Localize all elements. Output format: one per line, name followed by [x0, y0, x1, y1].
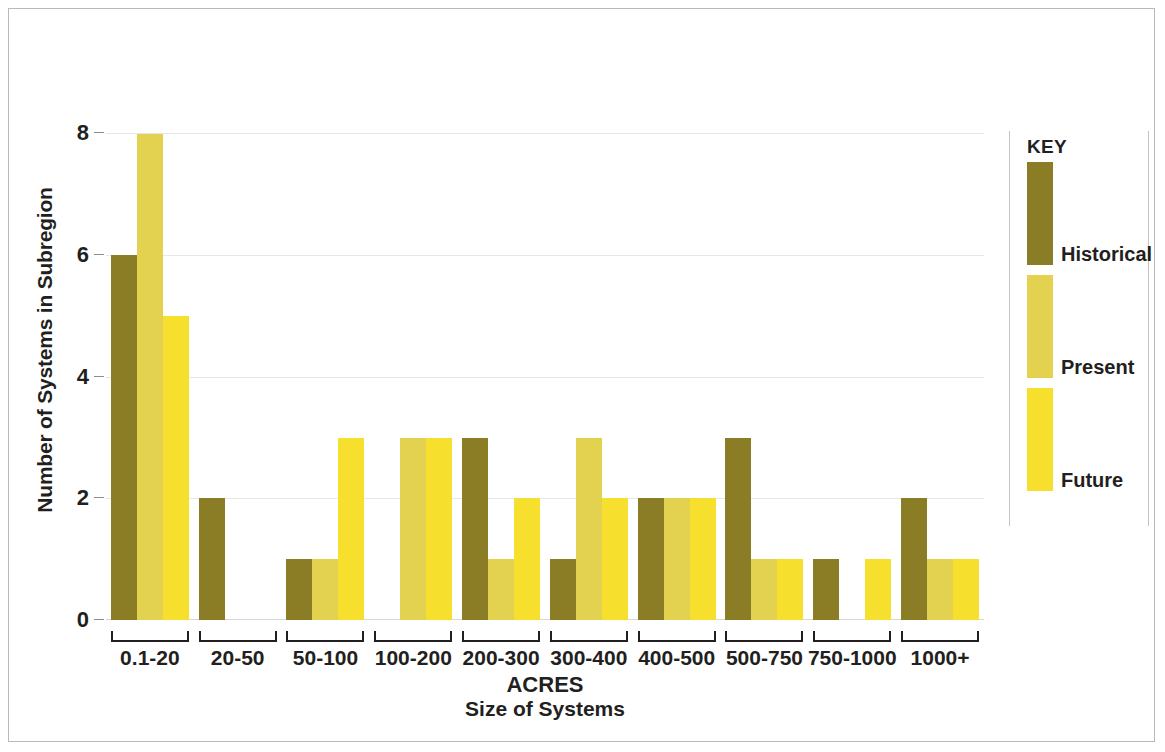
x-tick-label: 400-500: [638, 646, 715, 669]
bar-historical[interactable]: [725, 438, 751, 620]
bars: [194, 97, 282, 620]
legend-swatch-future: [1027, 388, 1053, 491]
legend-label: Present: [1061, 356, 1134, 379]
bar-historical[interactable]: [286, 559, 312, 620]
y-tick-mark: [94, 254, 104, 255]
x-tick-bracket: [111, 631, 189, 642]
bar-group: 0.1-20: [106, 97, 194, 620]
x-tick-bracket: [550, 631, 628, 642]
bar-historical[interactable]: [813, 559, 839, 620]
legend: KEY HistoricalPresentFuture: [1009, 131, 1149, 526]
x-tick-label: 200-300: [463, 646, 540, 669]
legend-entry[interactable]: Present: [1027, 275, 1148, 388]
y-tick-mark: [94, 376, 104, 377]
legend-label: Historical: [1061, 243, 1152, 266]
bar-groups: 0.1-2020-5050-100100-200200-300300-40040…: [106, 97, 984, 620]
bar-historical[interactable]: [550, 559, 576, 620]
bar-present[interactable]: [751, 559, 777, 620]
bar-group: 500-750: [721, 97, 809, 620]
bar-group: 300-400: [545, 97, 633, 620]
legend-label: Future: [1061, 469, 1123, 492]
bar-present[interactable]: [312, 559, 338, 620]
bar-present[interactable]: [927, 559, 953, 620]
x-tick-bracket: [374, 631, 452, 642]
bar-group: 200-300: [457, 97, 545, 620]
y-axis-title: Number of Systems in Subregion: [33, 100, 57, 600]
bar-present[interactable]: [664, 498, 690, 620]
bar-historical[interactable]: [638, 498, 664, 620]
bar-group: 750-1000: [808, 97, 896, 620]
bar-group: 1000+: [896, 97, 984, 620]
bars: [808, 97, 896, 620]
y-tick-label: 4: [77, 365, 89, 387]
chart-figure: Number of Systems in Subregion 02468 0.1…: [8, 8, 1155, 742]
bar-historical[interactable]: [111, 255, 137, 620]
bar-future[interactable]: [514, 498, 540, 620]
bar-present[interactable]: [400, 438, 426, 620]
bar-future[interactable]: [777, 559, 803, 620]
x-tick-label: 100-200: [375, 646, 452, 669]
y-tick-label: 0: [77, 609, 89, 631]
x-tick-label: 0.1-20: [120, 646, 180, 669]
x-tick-label: 750-1000: [808, 646, 897, 669]
legend-swatch-historical: [1027, 162, 1053, 265]
bar-historical[interactable]: [462, 438, 488, 620]
legend-entry[interactable]: Future: [1027, 388, 1148, 501]
y-tick-mark: [94, 497, 104, 498]
bars: [282, 97, 370, 620]
y-tick-label: 2: [77, 487, 89, 509]
bar-historical[interactable]: [901, 498, 927, 620]
legend-title: KEY: [1027, 136, 1148, 158]
y-tick-mark: [94, 132, 104, 133]
y-tick-label: 8: [77, 122, 89, 144]
x-tick-bracket: [462, 631, 540, 642]
x-tick-bracket: [901, 631, 979, 642]
x-tick-label: 300-400: [550, 646, 627, 669]
x-tick-label: 500-750: [726, 646, 803, 669]
bar-present[interactable]: [137, 134, 163, 621]
bars: [106, 97, 194, 620]
bar-group: 20-50: [194, 97, 282, 620]
x-axis-title: ACRES: [106, 672, 984, 697]
bar-group: 50-100: [282, 97, 370, 620]
bar-future[interactable]: [865, 559, 891, 620]
x-tick-label: 20-50: [211, 646, 265, 669]
bar-future[interactable]: [953, 559, 979, 620]
x-tick-bracket: [199, 631, 277, 642]
x-tick-label: 50-100: [293, 646, 358, 669]
x-tick-bracket: [638, 631, 716, 642]
x-tick-bracket: [286, 631, 364, 642]
bars: [369, 97, 457, 620]
x-tick-bracket: [813, 631, 891, 642]
legend-swatch-present: [1027, 275, 1053, 378]
legend-entry[interactable]: Historical: [1027, 162, 1148, 275]
y-tick-mark: [94, 619, 104, 620]
bar-group: 400-500: [633, 97, 721, 620]
bar-future[interactable]: [338, 438, 364, 620]
legend-entries: HistoricalPresentFuture: [1027, 162, 1148, 501]
y-tick-label: 6: [77, 244, 89, 266]
bar-historical[interactable]: [199, 498, 225, 620]
bar-present[interactable]: [488, 559, 514, 620]
bars: [896, 97, 984, 620]
plot-area: 02468 0.1-2020-5050-100100-200200-300300…: [106, 97, 984, 620]
x-axis-subtitle: Size of Systems: [106, 697, 984, 721]
x-axis-titles: ACRES Size of Systems: [106, 672, 984, 721]
bars: [545, 97, 633, 620]
bar-group: 100-200: [369, 97, 457, 620]
bar-future[interactable]: [426, 438, 452, 620]
bars: [633, 97, 721, 620]
x-tick-bracket: [725, 631, 803, 642]
bars: [721, 97, 809, 620]
bars: [457, 97, 545, 620]
bar-present[interactable]: [576, 438, 602, 620]
x-tick-label: 1000+: [911, 646, 970, 669]
bar-future[interactable]: [690, 498, 716, 620]
bar-future[interactable]: [163, 316, 189, 620]
bar-future[interactable]: [602, 498, 628, 620]
